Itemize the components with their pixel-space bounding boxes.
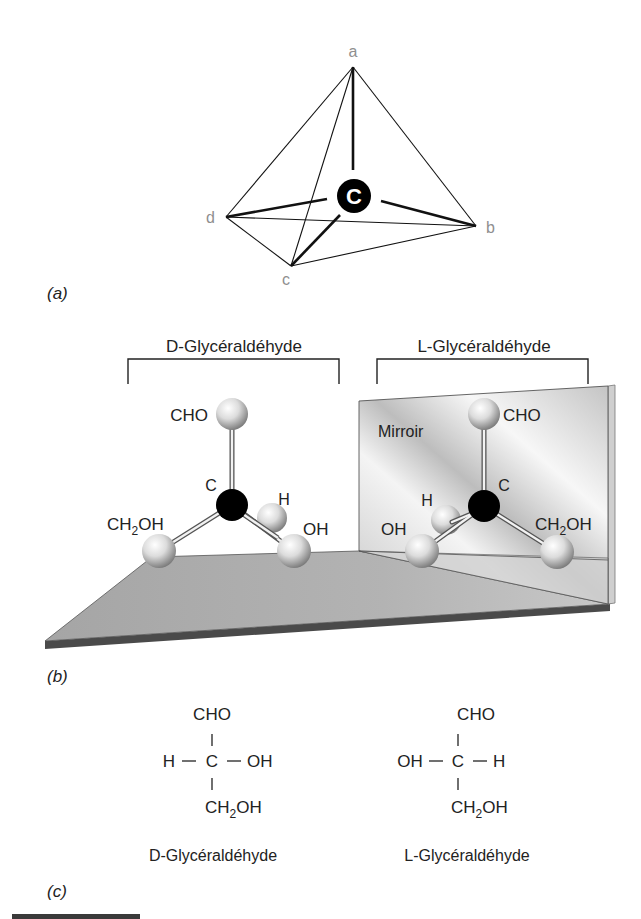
l-fischer-top: CHO [457,705,495,724]
d-oh-label: OH [303,520,329,539]
glyceraldehyde-figure: C a b c d (a) D-Glycéraldéhyde L-Glycéra… [0,0,641,919]
l-oh-atom [405,534,439,568]
panel-b-label: (b) [47,667,68,686]
d-fischer-top: CHO [193,705,231,724]
d-cho-atom [216,398,248,430]
d-fischer-center: C [206,752,218,771]
d-oh-atom [277,534,311,568]
d-title-bracket: D-Glycéraldéhyde [128,337,339,384]
d-cho-label: CHO [170,406,208,425]
d-c-label: C [205,477,217,494]
mirror-label: Mirroir [378,423,424,440]
vertex-a-label: a [349,43,358,60]
vertex-c-label: c [282,271,290,288]
l-fischer-bottom: CH2OH [451,798,508,821]
l-oh-label: OH [381,520,407,539]
carbon-label: C [346,184,362,209]
l-title-bracket: L-Glycéraldéhyde [377,337,588,384]
panel-a-label: (a) [47,284,68,303]
d-fischer-caption: D-Glycéraldéhyde [149,847,277,864]
l-model-title: L-Glycéraldéhyde [417,337,550,356]
d-model-title: D-Glycéraldéhyde [166,337,302,356]
tetrahedron-diagram: C a b c d [206,43,495,288]
l-c-label: C [498,477,510,494]
d-ch2oh-atom [142,534,176,568]
d-fischer-projection: CHO H C OH CH2OH [163,705,273,821]
vertex-d-label: d [206,209,215,226]
carbon-bonds [226,67,476,266]
d-carbon-atom [216,489,248,521]
l-ch2oh-atom [540,535,574,569]
vertex-b-label: b [486,219,495,236]
l-fischer-center: C [452,752,464,771]
l-fischer-caption: L-Glycéraldéhyde [404,847,530,864]
tetrahedron-edges [226,67,476,266]
l-carbon-atom [468,490,500,522]
l-fischer-right: H [493,752,505,771]
l-fischer-left: OH [397,752,423,771]
d-fischer-bottom: CH2OH [205,798,262,821]
d-h-label: H [278,491,290,508]
panel-c-label: (c) [47,882,67,901]
l-fischer-projection: CHO OH C H CH2OH [397,705,508,821]
l-h-label: H [421,492,433,509]
l-cho-label: CHO [503,406,541,425]
d-fischer-right: OH [247,752,273,771]
d-fischer-left: H [163,752,175,771]
d-glyceraldehyde-model: CHO C H OH CH2OH [107,398,329,568]
l-cho-atom [468,398,500,430]
bottom-rule [12,914,140,919]
